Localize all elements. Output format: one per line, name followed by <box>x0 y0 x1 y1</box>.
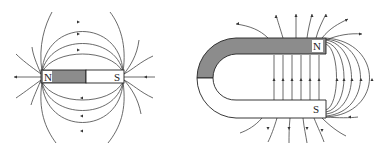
horseshoe-field-lines <box>236 14 370 143</box>
diagram-canvas: N S <box>0 0 386 154</box>
horseshoe-north-label: N <box>313 40 321 52</box>
horseshoe-magnet: N S <box>197 38 326 118</box>
bar-north-label: N <box>44 71 52 83</box>
bar-south-label: S <box>114 71 120 83</box>
bar-magnet: N S <box>41 70 124 83</box>
horseshoe-south-label: S <box>313 103 319 115</box>
magnetic-field-diagram: N S <box>0 0 386 154</box>
